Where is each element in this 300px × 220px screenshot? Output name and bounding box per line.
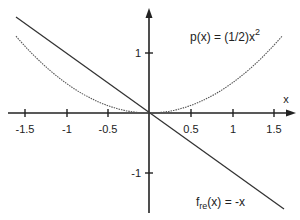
x-tick-label: -1 <box>62 123 72 135</box>
x-tick-label: 1 <box>230 123 236 135</box>
p-function-label: p(x) = (1/2)x2 <box>190 27 260 44</box>
y-tick-label: 1 <box>135 47 141 59</box>
x-tick-label: 1.5 <box>266 123 281 135</box>
x-tick-label: 0.5 <box>183 123 198 135</box>
f-function-label: fre(x) = -x <box>196 195 245 211</box>
y-tick-label: -1 <box>131 167 141 179</box>
x-tick-label: -1.5 <box>16 123 35 135</box>
chart: -1.5 -1 -0.5 0.5 1 1.5 1 -1 x p(x) = (1/… <box>0 0 300 220</box>
x-axis-label: x <box>283 93 289 105</box>
x-axis-arrow-icon <box>286 110 296 117</box>
y-axis-arrow-icon <box>146 8 153 18</box>
x-tick-label: -0.5 <box>99 123 118 135</box>
